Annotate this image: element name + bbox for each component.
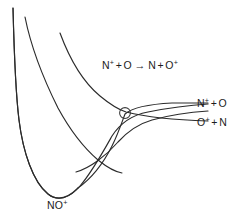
- reaction-product-species: N: [148, 59, 156, 71]
- potential-energy-curve-diagram: N++O→N+O+ N++O O++N NO+: [0, 0, 243, 223]
- reaction-product-charge: +: [174, 58, 178, 67]
- reaction-product-partner: O: [165, 59, 173, 71]
- reaction-reactant-species: N: [102, 59, 110, 71]
- reaction-arrow-icon: →: [132, 60, 148, 71]
- well-species: NO: [47, 199, 63, 211]
- well-label: NO+: [47, 200, 68, 211]
- reaction-reactant-partner: O: [124, 59, 132, 71]
- asymptote-upper-species: N: [197, 97, 205, 109]
- asymptote-upper-plus: +: [209, 97, 218, 109]
- asymptote-label-lower: O++N: [197, 117, 227, 128]
- reaction-label: N++O→N+O+: [102, 60, 178, 71]
- asymptote-lower-plus: +: [210, 116, 219, 128]
- reaction-plus-2: +: [156, 59, 165, 71]
- curve-canvas: [0, 0, 243, 223]
- reaction-plus-1: +: [114, 59, 123, 71]
- nooplus-well-floor: [13, 8, 78, 198]
- asymptote-lower-partner: N: [219, 116, 227, 128]
- nooplus-excited-curve: [25, 17, 122, 173]
- well-charge: +: [63, 198, 67, 207]
- upper-diabatic-curve: [60, 33, 208, 121]
- asymptote-label-upper: N++O: [197, 98, 227, 109]
- asymptote-upper-partner: O: [219, 97, 227, 109]
